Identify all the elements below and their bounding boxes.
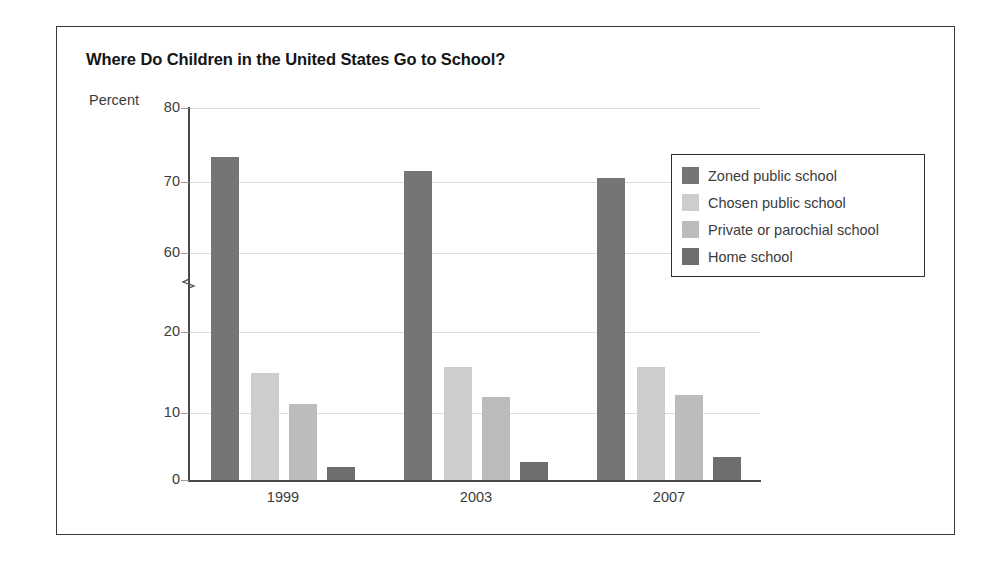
y-tick-60 <box>181 253 189 254</box>
y-tick-label-70: 70 <box>134 173 180 189</box>
legend-item-home: Home school <box>682 243 924 270</box>
bar-1999-home <box>327 467 355 480</box>
y-tick-label-60: 60 <box>134 244 180 260</box>
bar-1999-chosen <box>251 373 279 480</box>
x-tick-label-2007: 2007 <box>609 489 729 505</box>
y-tick-label-20: 20 <box>134 323 180 339</box>
x-tick-label-2003: 2003 <box>416 489 536 505</box>
legend-item-zoned: Zoned public school <box>682 162 924 189</box>
legend-item-chosen: Chosen public school <box>682 189 924 216</box>
y-tick-label-80: 80 <box>134 99 180 115</box>
bar-1999-zoned <box>211 157 239 480</box>
legend-label-zoned: Zoned public school <box>708 168 837 184</box>
x-tick-label-1999: 1999 <box>223 489 343 505</box>
y-axis-line <box>188 107 190 481</box>
legend-swatch-zoned-icon <box>682 167 699 184</box>
bar-group-2003 <box>404 100 548 480</box>
y-tick-10 <box>181 413 189 414</box>
bar-1999-private <box>289 404 317 480</box>
bar-2007-zoned <box>597 178 625 480</box>
axis-break-icon <box>181 272 197 294</box>
bar-2003-chosen <box>444 367 472 480</box>
y-axis-title: Percent <box>89 92 139 108</box>
legend-label-chosen: Chosen public school <box>708 195 846 211</box>
legend-label-home: Home school <box>708 249 793 265</box>
bar-group-1999 <box>211 100 355 480</box>
y-tick-70 <box>181 182 189 183</box>
legend-swatch-home-icon <box>682 248 699 265</box>
y-tick-0 <box>181 480 189 481</box>
y-tick-label-10: 10 <box>134 404 180 420</box>
legend-swatch-private-icon <box>682 221 699 238</box>
bar-2007-chosen <box>637 367 665 480</box>
y-tick-20 <box>181 332 189 333</box>
legend-label-private: Private or parochial school <box>708 222 879 238</box>
bar-2007-private <box>675 395 703 480</box>
plot-area: Percent 80 70 60 20 10 0 <box>0 0 995 567</box>
legend-item-private: Private or parochial school <box>682 216 924 243</box>
y-tick-label-0: 0 <box>134 471 180 487</box>
chart-legend: Zoned public school Chosen public school… <box>671 154 925 277</box>
bar-2003-home <box>520 462 548 480</box>
legend-swatch-chosen-icon <box>682 194 699 211</box>
bar-2007-home <box>713 457 741 480</box>
bar-2003-zoned <box>404 171 432 480</box>
y-tick-80 <box>181 108 189 109</box>
bar-2003-private <box>482 397 510 480</box>
chart-figure: Where Do Children in the United States G… <box>0 0 995 567</box>
x-axis-line <box>188 480 761 482</box>
